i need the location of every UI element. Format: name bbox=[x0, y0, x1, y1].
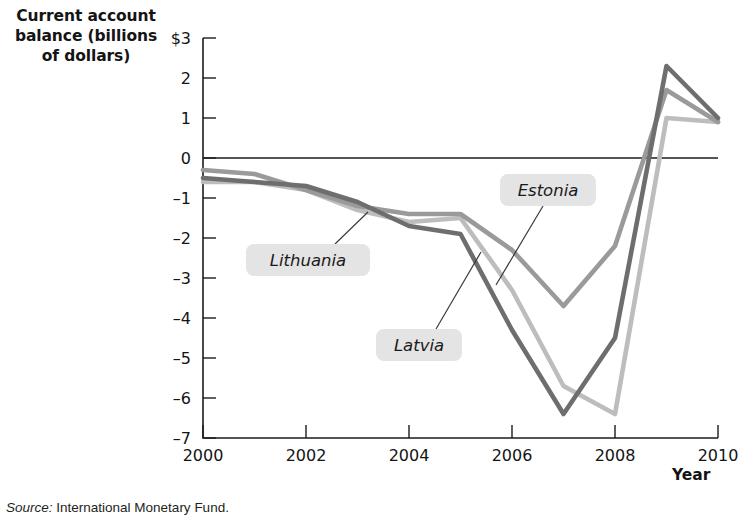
y-tick-label: –1 bbox=[173, 189, 191, 208]
y-tick-label: $3 bbox=[171, 29, 191, 48]
y-tick-label: –5 bbox=[173, 349, 191, 368]
source-note: Source: International Monetary Fund. bbox=[6, 500, 229, 515]
series-line-latvia bbox=[203, 66, 718, 414]
leader-line-lithuania bbox=[335, 212, 368, 244]
leader-line-latvia bbox=[436, 252, 481, 329]
series-label-lithuania: Lithuania bbox=[270, 251, 346, 270]
y-tick-label: 0 bbox=[181, 149, 191, 168]
chart-figure: Current account balance (billions of dol… bbox=[0, 0, 746, 532]
y-tick-label: –4 bbox=[173, 309, 191, 328]
line-chart-plot: $3210–1–2–3–4–5–6–7200020022004200620082… bbox=[0, 0, 746, 500]
x-tick-label: 2002 bbox=[286, 446, 327, 465]
x-tick-label: 2004 bbox=[389, 446, 430, 465]
x-tick-label: 2010 bbox=[698, 446, 739, 465]
series-label-latvia: Latvia bbox=[394, 336, 444, 355]
series-label-estonia: Estonia bbox=[518, 181, 579, 200]
source-label: Source: bbox=[6, 500, 53, 515]
y-tick-label: –3 bbox=[173, 269, 191, 288]
y-tick-label: 2 bbox=[181, 69, 191, 88]
x-tick-label: 2006 bbox=[492, 446, 533, 465]
y-tick-label: 1 bbox=[181, 109, 191, 128]
x-tick-label: 2008 bbox=[595, 446, 636, 465]
y-tick-label: –6 bbox=[173, 389, 191, 408]
y-tick-label: –2 bbox=[173, 229, 191, 248]
x-tick-label: 2000 bbox=[183, 446, 224, 465]
source-value: International Monetary Fund. bbox=[56, 500, 229, 515]
